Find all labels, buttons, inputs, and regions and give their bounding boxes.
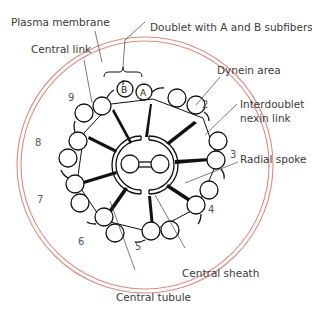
subfiber-b-label: B: [121, 85, 127, 95]
subfiber-a-label: A: [140, 88, 147, 98]
doublet-brace: [104, 67, 142, 77]
svg-text:8: 8: [35, 137, 41, 148]
label-central-link: Central link: [31, 43, 92, 55]
label-central-tubule: Central tubule: [116, 291, 191, 303]
svg-text:5: 5: [135, 241, 141, 252]
svg-text:2: 2: [202, 99, 208, 110]
svg-text:7: 7: [37, 194, 43, 205]
label-nexin-line2: nexin link: [240, 112, 292, 124]
label-central-sheath: Central sheath: [182, 267, 259, 279]
svg-text:9: 9: [68, 92, 74, 103]
svg-text:4: 4: [208, 204, 214, 215]
label-plasma-membrane: Plasma membrane: [11, 16, 110, 28]
label-doublet: Doublet with A and B subfibers: [150, 21, 312, 33]
svg-text:3: 3: [230, 149, 236, 160]
label-nexin-line1: Interdoublet: [240, 98, 304, 110]
svg-text:6: 6: [78, 236, 84, 247]
central-tubules: [121, 155, 169, 173]
label-radial-spoke: Radial spoke: [240, 153, 307, 165]
label-dynein-area: Dynein area: [217, 64, 281, 76]
axoneme-diagram: B A 2 3 4 5 6 7 8 9 Plasma membrane Doub…: [0, 0, 312, 309]
